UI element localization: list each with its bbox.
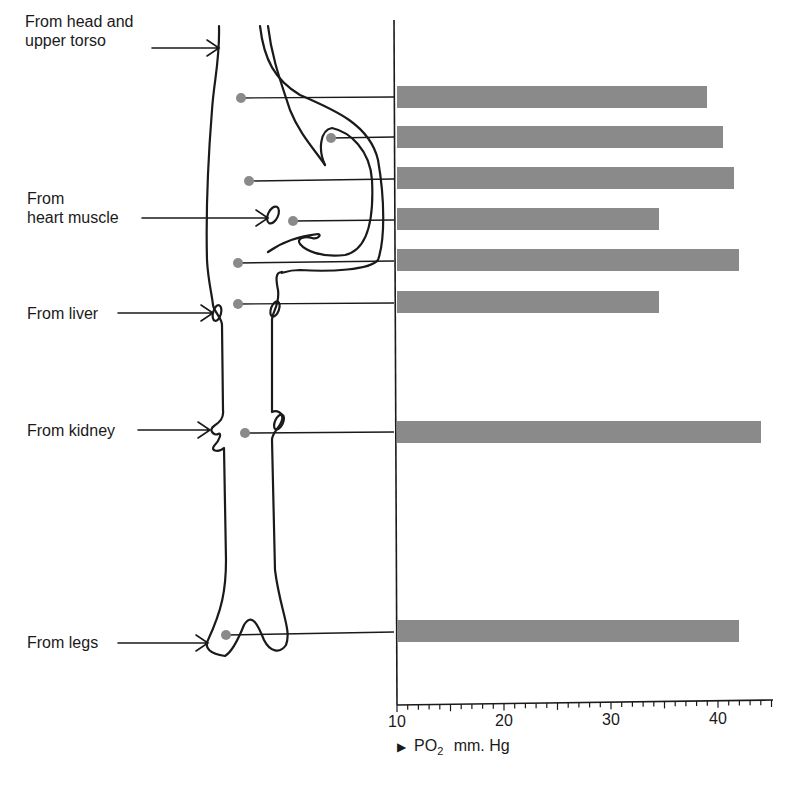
label-head-line1: From head and: [25, 12, 134, 31]
po2-bar-8: [397, 620, 739, 642]
aorta-inner-outline: [268, 26, 325, 165]
axis-title-sub: 2: [437, 745, 443, 757]
atrium-loop-outline: [268, 128, 372, 256]
label-head-torso: From head and upper torso: [25, 12, 134, 50]
label-legs: From legs: [27, 633, 98, 652]
sample-dot-1: [236, 93, 246, 103]
kidney-inflow-oval-right: [272, 413, 286, 431]
po2-bar-5: [397, 249, 739, 271]
leader-line-4: [293, 220, 394, 221]
axis-title-unit: mm. Hg: [454, 737, 510, 754]
leader-line-5: [238, 261, 394, 263]
arrow-head-torso: [152, 40, 219, 56]
sample-dot-4: [288, 216, 298, 226]
x-axis-title: ▶PO2 mm. Hg: [397, 737, 510, 757]
leader-line-6: [238, 303, 394, 304]
label-kidney: From kidney: [27, 421, 115, 440]
label-head-line2: upper torso: [25, 31, 134, 50]
arrow-legs: [118, 635, 208, 651]
arrow-kidney: [138, 422, 210, 438]
sample-dot-7: [240, 428, 250, 438]
po2-venous-diagram: From head and upper torso From heart mus…: [0, 0, 794, 785]
po2-bar-2: [397, 126, 723, 148]
arrow-heart-muscle: [142, 210, 268, 226]
label-liver: From liver: [27, 304, 98, 323]
po2-bar-6: [397, 291, 659, 313]
label-heart-muscle: From heart muscle: [27, 189, 119, 227]
po2-bar-7: [397, 421, 761, 443]
leader-line-7: [245, 432, 394, 433]
sample-dot-8: [221, 630, 231, 640]
x-tick-20: 20: [495, 712, 513, 730]
sample-dot-6: [233, 299, 243, 309]
leader-line-1: [241, 97, 394, 98]
x-tick-10: 10: [388, 713, 406, 731]
x-tick-40: 40: [709, 710, 727, 728]
label-heart-line2: heart muscle: [27, 208, 119, 227]
vena-cava-left-wall: [207, 26, 288, 656]
label-heart-line1: From: [27, 189, 119, 208]
axis-title-po: PO: [414, 737, 437, 754]
x-tick-30: 30: [602, 711, 620, 729]
y-axis-line: [394, 20, 397, 705]
diagram-drawing: [0, 0, 794, 785]
po2-bar-1: [397, 86, 707, 108]
sample-dot-5: [233, 258, 243, 268]
arrow-liver: [118, 305, 213, 321]
leader-line-8: [226, 632, 394, 635]
po2-bar-3: [397, 167, 734, 189]
leader-line-2: [331, 137, 394, 138]
po2-bar-4: [397, 208, 659, 230]
triangle-marker-icon: ▶: [397, 740, 406, 754]
x-axis-line: [397, 700, 773, 705]
coronary-sinus-oval: [265, 205, 282, 226]
sample-dot-3: [244, 176, 254, 186]
sample-dot-2: [326, 133, 336, 143]
